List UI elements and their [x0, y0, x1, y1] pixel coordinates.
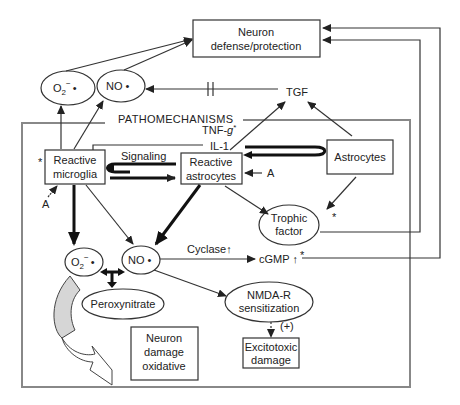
svg-text:microglia: microglia — [53, 168, 98, 180]
arrow-microglia-to-no-bottom — [86, 185, 133, 244]
arrow-microglia-to-no — [74, 101, 103, 149]
svg-text:damage: damage — [144, 346, 184, 358]
arrow-astrocytes-to-trophic — [327, 177, 356, 209]
star-cgmp: * — [300, 249, 305, 261]
a-microglia-label: A — [42, 198, 50, 210]
arrow-o2-to-defense — [66, 39, 192, 71]
svg-text:oxidative: oxidative — [142, 360, 185, 372]
astrocyte-loop — [245, 147, 325, 155]
tnf-label: TNF-g* — [202, 123, 236, 136]
peroxynitrate-arrowhead — [107, 282, 117, 288]
neuron-damage-node: Neuron damage oxidative — [131, 327, 198, 380]
arrow-a-to-microglia — [48, 186, 57, 197]
svg-text:Excitotoxic: Excitotoxic — [245, 341, 298, 353]
star-trophic: * — [332, 211, 337, 223]
superoxide-top-node: O2−• — [41, 71, 95, 105]
tgf-label: TGF — [286, 86, 308, 98]
svg-text:defense/protection: defense/protection — [211, 40, 302, 52]
svg-text:damage: damage — [251, 354, 291, 366]
svg-text:astrocytes: astrocytes — [186, 170, 237, 182]
excitotoxic-damage-node: Excitotoxic damage — [243, 338, 299, 368]
astrocytes-node: Astrocytes — [327, 140, 393, 174]
svg-text:NO•: NO• — [106, 80, 130, 92]
arrow-no-to-defense — [124, 40, 192, 70]
arrow-trophic-to-defense — [320, 40, 420, 232]
nmda-node: NMDA-R sensitization — [225, 282, 313, 322]
pathomechanisms-diagram: PATHOMECHANISMS Neuron defense/protectio… — [0, 0, 460, 405]
svg-text:sensitization: sensitization — [239, 302, 300, 314]
signaling-label: Signaling — [121, 150, 166, 162]
reactive-astrocytes-node: Reactive astrocytes — [181, 153, 242, 184]
svg-text:Astrocytes: Astrocytes — [334, 151, 386, 163]
star-microglia: * — [38, 156, 43, 168]
svg-text:Neuron: Neuron — [146, 332, 182, 344]
nitric-oxide-top-node: NO• — [97, 70, 145, 102]
svg-text:Reactive: Reactive — [54, 154, 97, 166]
peroxynitrate-node: Peroxynitrate — [82, 289, 164, 319]
arrow-astro-to-tgf — [230, 102, 285, 150]
superoxide-bottom-node: O2−• — [65, 248, 103, 276]
arrow-no-to-nmda — [154, 270, 226, 296]
link-arrowhead-right — [118, 268, 125, 276]
svg-text:Peroxynitrate: Peroxynitrate — [91, 298, 156, 310]
reactive-microglia-node: Reactive microglia — [45, 150, 105, 184]
arrow-astro-to-trophic — [225, 186, 268, 214]
svg-text:factor: factor — [275, 225, 303, 237]
neuron-defense-node: Neuron defense/protection — [193, 20, 320, 57]
signal-loop-upper — [108, 164, 177, 172]
plus-label: (+) — [280, 320, 294, 332]
svg-text:NMDA-R: NMDA-R — [247, 289, 291, 301]
a-astro-label: A — [267, 167, 275, 179]
svg-text:Neuron: Neuron — [238, 26, 274, 38]
svg-text:Trophic: Trophic — [271, 212, 308, 224]
arrow-astro-to-no-bottom — [156, 185, 200, 244]
il1-label: IL-1 — [210, 140, 229, 152]
svg-text:NO•: NO• — [128, 254, 152, 266]
cgmp-label: cGMP↑ — [259, 253, 298, 265]
cyclase-label: Cyclase↑ — [187, 243, 232, 255]
svg-text:Reactive: Reactive — [190, 156, 233, 168]
trophic-factor-node: Trophic factor — [259, 205, 319, 245]
astrocyte-loop-arrowhead — [243, 151, 252, 159]
